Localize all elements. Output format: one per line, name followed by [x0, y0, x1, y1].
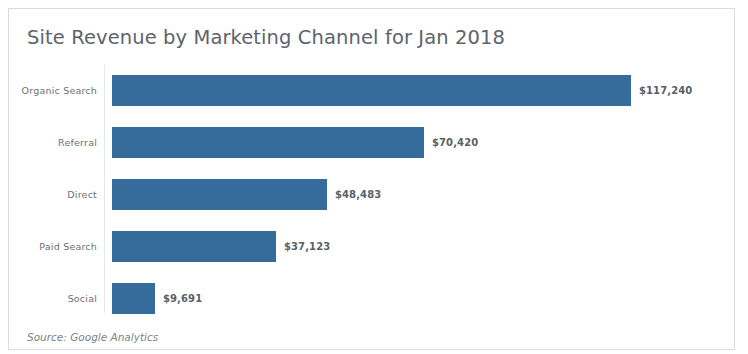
bar — [112, 283, 155, 314]
bar-row: Social$9,691 — [9, 283, 734, 335]
bar-value-label: $37,123 — [284, 231, 330, 262]
bar-value-label: $9,691 — [163, 283, 202, 314]
bar-value-label: $117,240 — [639, 75, 692, 106]
category-label: Direct — [9, 179, 97, 210]
bar-value-label: $70,420 — [432, 127, 478, 158]
category-label: Paid Search — [9, 231, 97, 262]
chart-card: Site Revenue by Marketing Channel for Ja… — [8, 8, 735, 350]
source-note: Source: Google Analytics — [27, 331, 158, 343]
bar-row: Direct$48,483 — [9, 179, 734, 231]
bar-value-label: $48,483 — [335, 179, 381, 210]
bar — [112, 75, 631, 106]
category-label: Referral — [9, 127, 97, 158]
chart-title: Site Revenue by Marketing Channel for Ja… — [27, 26, 505, 49]
category-label: Social — [9, 283, 97, 314]
bar-row: Organic Search$117,240 — [9, 75, 734, 127]
category-label: Organic Search — [9, 75, 97, 106]
bar — [112, 127, 424, 158]
bar-chart-plot-area: Organic Search$117,240Referral$70,420Dir… — [9, 65, 734, 315]
bar — [112, 231, 276, 262]
bar-row: Referral$70,420 — [9, 127, 734, 179]
bar-row: Paid Search$37,123 — [9, 231, 734, 283]
bar — [112, 179, 327, 210]
